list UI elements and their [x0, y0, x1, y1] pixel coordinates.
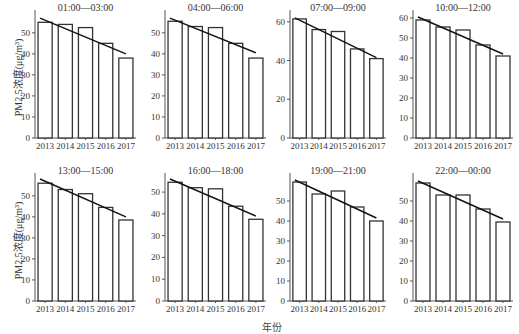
bar [436, 195, 450, 301]
bar [496, 222, 510, 301]
bar-chart: 0102030405020132014201520162017 [0, 0, 519, 334]
y-axis-label-bottom: PM2.5浓度(μg/m³) [10, 186, 25, 296]
bar [456, 195, 470, 301]
x-tick-label: 2017 [494, 304, 513, 314]
bar [416, 183, 430, 301]
x-tick-label: 2013 [414, 304, 433, 314]
y-tick-label: 40 [399, 216, 409, 226]
y-tick-label: 50 [399, 196, 409, 206]
x-tick-label: 2014 [434, 304, 453, 314]
x-tick-label: 2015 [454, 304, 473, 314]
x-axis-label: 年份 [262, 319, 282, 334]
y-tick-label: 10 [399, 276, 409, 286]
y-tick-label: 0 [404, 296, 409, 306]
x-tick-label: 2016 [474, 304, 493, 314]
y-tick-label: 30 [399, 236, 409, 246]
y-tick-label: 20 [399, 256, 409, 266]
bar [476, 209, 490, 301]
y-axis-label-top: PM2.5浓度(μg/m³) [10, 23, 25, 133]
